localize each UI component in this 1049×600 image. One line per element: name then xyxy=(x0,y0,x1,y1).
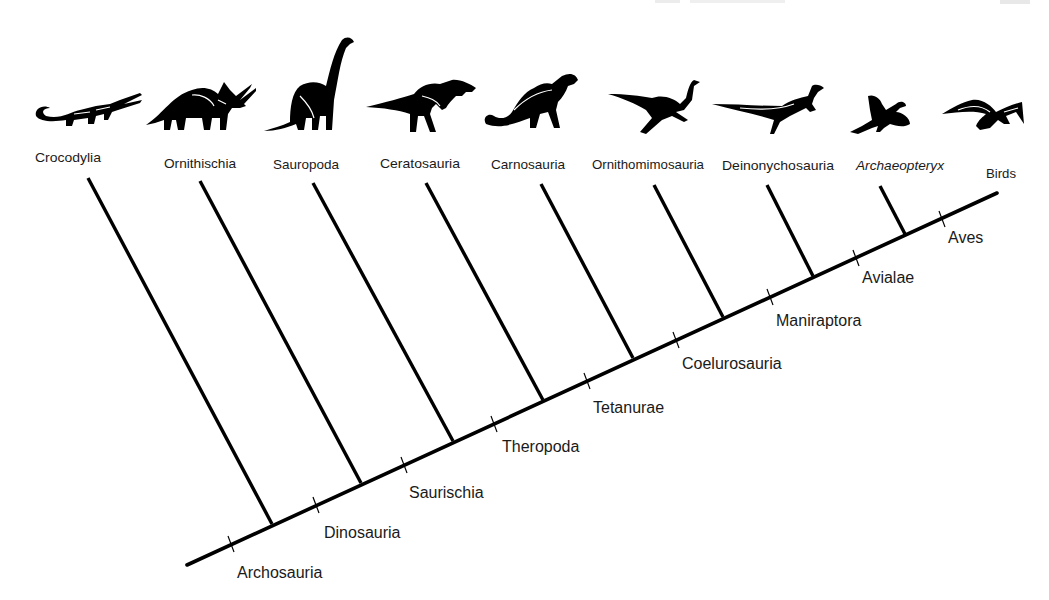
taxon-label-sauropoda: Sauropoda xyxy=(273,157,340,172)
ceratosaur-silhouette-icon xyxy=(366,80,476,132)
clade-label-archosauria: Archosauria xyxy=(237,564,322,581)
branch-sauropoda xyxy=(313,183,453,441)
branch-deinonychosauria xyxy=(767,185,813,276)
dromaeosaur-silhouette-icon xyxy=(712,85,824,134)
clade-label-dinosauria: Dinosauria xyxy=(324,524,401,541)
ornithomimid-silhouette-icon xyxy=(608,80,700,134)
branch-ceratosauria xyxy=(426,183,543,400)
taxon-label-deinonychosauria: Deinonychosauria xyxy=(722,158,835,173)
carnosaur-silhouette-icon xyxy=(485,74,578,128)
branch-ornithomimosauria xyxy=(654,185,723,317)
branch-archaeopteryx xyxy=(880,186,905,234)
bird-silhouette-icon xyxy=(942,100,1024,130)
clade-label-saurischia: Saurischia xyxy=(409,484,484,501)
clade-label-aves: Aves xyxy=(948,229,983,246)
taxon-label-crocodylia: Crocodylia xyxy=(35,150,102,165)
clade-label-theropoda: Theropoda xyxy=(502,438,579,455)
taxon-label-ceratosauria: Ceratosauria xyxy=(380,156,461,171)
sauropod-silhouette-icon xyxy=(264,38,354,131)
branch-crocodylia xyxy=(88,178,272,524)
clade-label-tetanurae: Tetanurae xyxy=(593,399,664,416)
clade-label-coelurosauria: Coelurosauria xyxy=(682,355,782,372)
cladogram-trunk xyxy=(187,193,997,565)
cladogram: Crocodylia Ornithischia Sauropoda Cerato… xyxy=(0,0,1049,600)
taxon-label-carnosauria: Carnosauria xyxy=(491,157,566,172)
crocodile-silhouette-icon xyxy=(36,93,142,126)
branch-carnosauria xyxy=(541,184,633,358)
taxon-label-ornithomimosauria: Ornithomimosauria xyxy=(592,157,705,172)
taxon-label-archaeopteryx: Archaeopteryx xyxy=(855,158,945,173)
taxon-label-ornithischia: Ornithischia xyxy=(164,156,237,171)
faint-header xyxy=(655,0,1030,4)
clade-label-avialae: Avialae xyxy=(862,269,914,286)
archaeopteryx-silhouette-icon xyxy=(850,95,910,134)
taxon-label-birds: Birds xyxy=(986,166,1016,181)
triceratops-silhouette-icon xyxy=(146,82,256,130)
clade-label-maniraptora: Maniraptora xyxy=(776,312,861,329)
